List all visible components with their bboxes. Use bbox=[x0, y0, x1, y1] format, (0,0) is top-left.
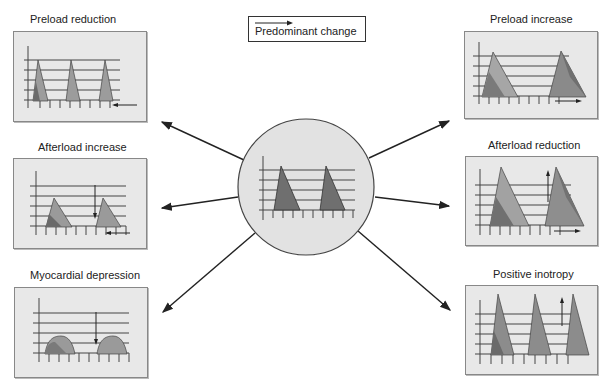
panel-title-myocardial-depression: Myocardial depression bbox=[30, 269, 140, 281]
arrow-to-preload-reduction bbox=[162, 122, 244, 160]
center-circle bbox=[238, 119, 374, 255]
arrow-to-afterload-increase bbox=[162, 197, 238, 208]
panel-title-preload-reduction: Preload reduction bbox=[30, 13, 116, 25]
panel-preload-reduction bbox=[13, 31, 147, 122]
panel-title-afterload-reduction: Afterload reduction bbox=[488, 139, 580, 151]
legend-box: Predominant change bbox=[248, 16, 366, 42]
arrow-to-myocardial-depression bbox=[163, 233, 255, 312]
panel-afterload-reduction bbox=[465, 156, 598, 246]
arrow-to-preload-increase bbox=[369, 121, 449, 158]
panel-title-positive-inotropy: Positive inotropy bbox=[493, 268, 574, 280]
panel-afterload-increase bbox=[13, 158, 147, 249]
arrow-to-afterload-reduction bbox=[375, 197, 449, 206]
panel-positive-inotropy bbox=[465, 285, 598, 375]
panel-myocardial-depression bbox=[14, 287, 148, 378]
panel-preload-increase bbox=[464, 31, 598, 119]
arrow-to-positive-inotropy bbox=[358, 231, 450, 310]
legend-label: Predominant change bbox=[255, 25, 357, 37]
panel-title-preload-increase: Preload increase bbox=[490, 13, 573, 25]
panel-title-afterload-increase: Afterload increase bbox=[38, 141, 127, 153]
